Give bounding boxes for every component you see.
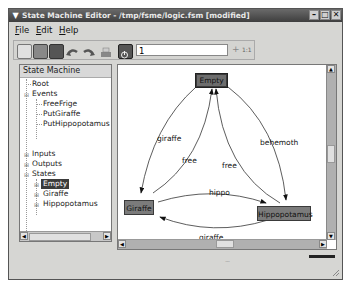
state-node-empty[interactable]: Empty bbox=[196, 74, 227, 87]
expand-icon[interactable]: ⊞ bbox=[34, 192, 39, 197]
close-button[interactable]: ✕ bbox=[331, 10, 341, 20]
svg-text:free: free bbox=[222, 161, 237, 170]
open-icon[interactable] bbox=[33, 44, 48, 59]
scroll-thumb[interactable] bbox=[327, 145, 335, 163]
tree-node-states[interactable]: States bbox=[32, 169, 56, 179]
expand-icon[interactable]: ⊞ bbox=[24, 162, 29, 167]
maximize-button[interactable]: □ bbox=[320, 10, 330, 20]
window-menu-icon[interactable]: ▼ bbox=[11, 11, 20, 20]
resize-grip-icon[interactable] bbox=[332, 269, 340, 277]
tree-node-freefrige[interactable]: FreeFrige bbox=[43, 99, 77, 109]
status-indicator bbox=[309, 255, 335, 258]
zoom-input[interactable]: 1 bbox=[136, 44, 228, 56]
redo-icon[interactable] bbox=[82, 44, 95, 57]
collapse-icon[interactable]: ⊟ bbox=[24, 172, 29, 177]
tree-node-giraffe[interactable]: Giraffe bbox=[43, 189, 68, 199]
state-node-hippopotamus[interactable]: Hippopotamus bbox=[257, 206, 311, 221]
scroll-thumb[interactable] bbox=[29, 233, 91, 241]
menu-help[interactable]: Help bbox=[59, 25, 78, 35]
zoom-reset-button[interactable]: 1:1 bbox=[242, 46, 252, 53]
scroll-right-icon[interactable]: ▶ bbox=[103, 232, 111, 240]
menu-file[interactable]: File bbox=[15, 25, 29, 35]
tree-node-putgiraffe[interactable]: PutGiraffe bbox=[43, 109, 80, 119]
tree-horizontal-scrollbar[interactable]: ◀ ▶ bbox=[20, 231, 111, 241]
scroll-down-icon[interactable]: ▼ bbox=[327, 232, 335, 240]
splitter-handle[interactable]: ······· bbox=[225, 258, 229, 264]
canvas-horizontal-scrollbar[interactable]: ◀ ▶ bbox=[118, 239, 327, 249]
undo-icon[interactable] bbox=[66, 44, 79, 57]
tree-header: State Machine bbox=[20, 65, 111, 78]
expand-icon[interactable]: ⊞ bbox=[34, 202, 39, 207]
tree-node-events[interactable]: Events bbox=[32, 89, 57, 99]
state-node-giraffe[interactable]: Giraffe bbox=[124, 200, 154, 215]
zoom-in-button[interactable]: + bbox=[232, 44, 240, 54]
collapse-icon[interactable]: ⊟ bbox=[24, 92, 29, 97]
tree-node-inputs[interactable]: Inputs bbox=[32, 149, 55, 159]
menu-edit[interactable]: Edit bbox=[36, 25, 52, 35]
window-title: State Machine Editor - /tmp/fsme/logic.f… bbox=[22, 9, 250, 22]
toolbar: 1 + 1:1 bbox=[13, 40, 255, 60]
tree-node-outputs[interactable]: Outputs bbox=[32, 159, 62, 169]
scroll-left-icon[interactable]: ◀ bbox=[20, 232, 28, 240]
tree-panel: State Machine Root ⊟ Events FreeFrige Pu… bbox=[19, 64, 112, 242]
scroll-thumb[interactable] bbox=[216, 240, 234, 248]
expand-icon[interactable]: ⊞ bbox=[24, 152, 29, 157]
title-bar[interactable]: ▼ State Machine Editor - /tmp/fsme/logic… bbox=[9, 9, 342, 22]
svg-text:hippo: hippo bbox=[209, 188, 230, 197]
tree-node-hippopotamus[interactable]: Hippopotamus bbox=[43, 199, 98, 209]
svg-text:behemoth: behemoth bbox=[260, 138, 299, 147]
svg-text:free: free bbox=[182, 156, 197, 165]
minimize-button[interactable]: – bbox=[309, 10, 319, 20]
save-icon[interactable] bbox=[49, 44, 64, 59]
tree-node-puthippopotamus[interactable]: PutHippopotamus bbox=[43, 119, 110, 129]
scroll-right-icon[interactable]: ▶ bbox=[319, 240, 327, 248]
tree-node-root[interactable]: Root bbox=[32, 79, 49, 89]
diagram-canvas[interactable]: giraffe free free behemoth hippo giraffe… bbox=[117, 64, 337, 250]
new-icon[interactable] bbox=[17, 44, 32, 59]
canvas-vertical-scrollbar[interactable]: ▲ ▼ bbox=[326, 65, 336, 240]
menu-bar: File Edit Help bbox=[9, 22, 342, 38]
app-window: ▼ State Machine Editor - /tmp/fsme/logic… bbox=[8, 8, 343, 280]
print-icon[interactable] bbox=[99, 44, 112, 57]
tree-node-empty[interactable]: Empty bbox=[41, 179, 69, 189]
expand-icon[interactable]: ⊞ bbox=[34, 182, 39, 187]
scroll-up-icon[interactable]: ▲ bbox=[327, 65, 335, 73]
svg-text:giraffe: giraffe bbox=[157, 134, 182, 143]
scroll-left-icon[interactable]: ◀ bbox=[118, 240, 126, 248]
power-icon[interactable] bbox=[118, 44, 133, 59]
